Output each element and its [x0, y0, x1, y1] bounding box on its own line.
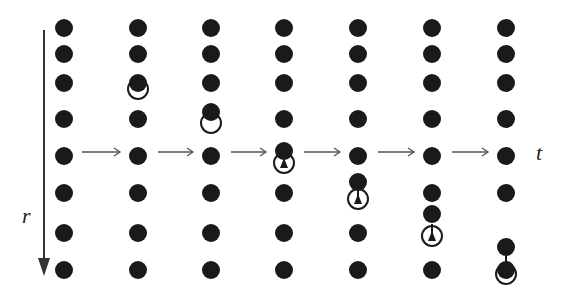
- atom-dot: [202, 147, 220, 165]
- atom-dot: [202, 74, 220, 92]
- atom-dot: [55, 45, 73, 63]
- atom-dot: [202, 261, 220, 279]
- atom-dot: [497, 238, 515, 256]
- atom-dot: [129, 147, 147, 165]
- atom-dot: [423, 74, 441, 92]
- atom-dot: [349, 147, 367, 165]
- atom-dot: [423, 110, 441, 128]
- atom-dot: [129, 74, 147, 92]
- atom-dot: [423, 19, 441, 37]
- atom-dot: [129, 110, 147, 128]
- t-axis-label: t: [536, 140, 542, 166]
- atom-dot: [55, 147, 73, 165]
- atom-dot: [423, 261, 441, 279]
- atom-dot: [423, 184, 441, 202]
- atom-dot: [497, 45, 515, 63]
- atom-dot: [202, 224, 220, 242]
- atom-dot: [202, 45, 220, 63]
- atom-dot: [55, 110, 73, 128]
- atom-dot: [55, 19, 73, 37]
- atom-dot: [275, 261, 293, 279]
- bubble-migration-diagram: [0, 0, 570, 301]
- atom-dot: [275, 74, 293, 92]
- atom-dot: [275, 184, 293, 202]
- r-axis-arrowhead-icon: [38, 258, 50, 276]
- triangle-marker-icon: [428, 231, 436, 241]
- atom-dot: [129, 261, 147, 279]
- atom-dot: [202, 19, 220, 37]
- atom-dot: [275, 224, 293, 242]
- atom-dot: [202, 184, 220, 202]
- atom-dot: [275, 19, 293, 37]
- atom-dot: [55, 74, 73, 92]
- atom-dot: [497, 147, 515, 165]
- atom-dot: [55, 261, 73, 279]
- atom-dot: [129, 184, 147, 202]
- atom-dot: [497, 110, 515, 128]
- atom-dot: [129, 224, 147, 242]
- atom-dot: [497, 74, 515, 92]
- atom-dot: [497, 19, 515, 37]
- atom-dot: [423, 147, 441, 165]
- r-axis-label: r: [22, 203, 31, 229]
- atom-dot: [349, 74, 367, 92]
- atom-dot: [349, 19, 367, 37]
- atom-dot: [275, 110, 293, 128]
- atom-dot: [55, 184, 73, 202]
- atom-dot: [349, 110, 367, 128]
- atom-dot: [423, 45, 441, 63]
- atom-dot: [349, 224, 367, 242]
- atom-dot: [275, 45, 293, 63]
- atom-dot: [129, 19, 147, 37]
- atom-dot: [497, 184, 515, 202]
- atom-dot: [423, 205, 441, 223]
- atom-dot: [349, 261, 367, 279]
- atom-dot: [129, 45, 147, 63]
- atom-dot: [349, 45, 367, 63]
- triangle-marker-icon: [354, 194, 362, 204]
- atom-dot: [55, 224, 73, 242]
